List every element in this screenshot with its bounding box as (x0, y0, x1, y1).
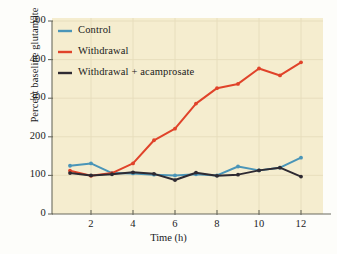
data-point (173, 178, 177, 182)
y-tick-label: 200 (30, 130, 46, 141)
y-tick-label: 300 (30, 91, 46, 102)
data-point (89, 174, 93, 178)
data-point (173, 174, 177, 178)
data-point (215, 174, 219, 178)
data-point (236, 82, 240, 86)
data-point (110, 172, 114, 176)
x-tick-label: 6 (155, 218, 195, 229)
data-point (215, 86, 219, 90)
y-tick-label: 400 (30, 53, 46, 64)
line-chart (0, 0, 337, 254)
legend-label-1: Control (78, 24, 111, 35)
x-axis-label: Time (h) (0, 232, 337, 243)
data-point (89, 162, 93, 166)
data-point (278, 166, 282, 170)
data-point (131, 170, 135, 174)
data-point (278, 74, 282, 78)
x-tick-label: 8 (197, 218, 237, 229)
data-point (299, 60, 303, 64)
y-tick-label: 500 (30, 14, 46, 25)
data-point (299, 156, 303, 160)
data-point (68, 171, 72, 175)
figure-container: Percent baseline glutamate Time (h) 0100… (0, 0, 337, 254)
data-point (173, 127, 177, 131)
x-tick-label: 2 (71, 218, 111, 229)
data-point (68, 164, 72, 168)
y-tick-label: 0 (41, 207, 46, 218)
data-point (194, 102, 198, 106)
x-tick-label: 12 (281, 218, 321, 229)
legend-label-2: Withdrawal (78, 45, 129, 56)
data-point (299, 175, 303, 179)
x-tick-label: 4 (113, 218, 153, 229)
y-tick-label: 100 (30, 168, 46, 179)
data-point (152, 138, 156, 142)
data-point (257, 168, 261, 172)
data-point (131, 162, 135, 166)
data-point (257, 67, 261, 71)
data-point (236, 173, 240, 177)
data-point (236, 165, 240, 169)
data-point (152, 172, 156, 176)
legend-label-3: Withdrawal + acamprosate (78, 66, 194, 77)
x-tick-label: 10 (239, 218, 279, 229)
data-point (194, 171, 198, 175)
